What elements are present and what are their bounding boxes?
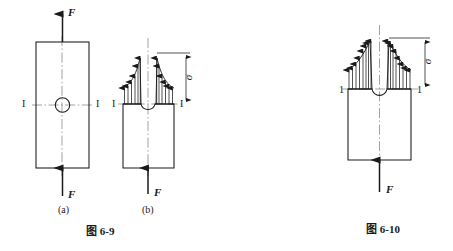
figure-6-9-subfigure-b: I I F σ [110,0,230,200]
stress-label-sigma-b: σ [183,75,194,80]
stress-label-sigma-c: σ [422,59,433,64]
bar-outline-b [123,104,174,168]
figure-6-9-a-drawing [0,0,120,200]
caption-figure-6-9: 图 6-9 [86,226,114,237]
force-label-bottom-b: F [154,187,161,198]
stress-arrows-right-c [388,41,410,89]
stress-arrows-left-c [349,41,371,89]
figure-6-10: 1 1 F σ [320,0,453,200]
subfigure-label-a: (a) [58,205,69,215]
figure-6-9-b-drawing [110,0,230,200]
force-label-top-a: F [68,7,75,18]
section-label-left-b: I [112,99,115,109]
subfigure-label-b: (b) [142,205,154,215]
force-label-bottom-a: F [68,189,75,200]
section-label-left-c: 1 [339,85,344,95]
caption-figure-6-10: 图 6-10 [366,224,400,235]
figure-6-9-subfigure-a: F F I I [0,0,120,200]
section-label-left-a: I [22,99,25,109]
section-label-right-c: 1 [417,85,422,95]
force-label-bottom-c: F [386,184,393,195]
section-label-right-b: I [180,99,183,109]
section-label-right-a: I [96,99,99,109]
figure-6-10-drawing [320,0,453,200]
